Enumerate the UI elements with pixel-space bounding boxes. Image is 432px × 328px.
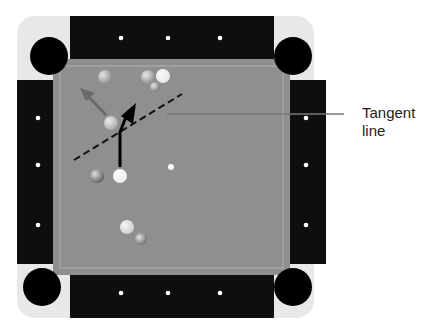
ball-bottom-light	[120, 220, 134, 234]
diamond-left-2	[36, 163, 41, 168]
tangent-label-line1: Tangent	[362, 104, 415, 122]
pocket-bottom-right	[274, 268, 312, 306]
rail-left	[17, 80, 53, 264]
ball-top-left	[98, 70, 112, 84]
rail-top	[70, 16, 274, 59]
object-ball	[104, 116, 118, 130]
tangent-label-line2: line	[362, 122, 415, 140]
ball-cluster-1	[141, 70, 155, 84]
ball-dark-left	[90, 169, 104, 183]
pocket-top-left	[30, 37, 68, 75]
rail-right	[290, 80, 326, 264]
diamond-bottom-3	[218, 291, 223, 296]
diamond-top-2	[166, 36, 171, 41]
diamond-left-1	[36, 116, 41, 121]
tangent-line-label: Tangent line	[362, 104, 415, 140]
spot	[168, 164, 174, 170]
diamond-bottom-2	[166, 291, 171, 296]
cue-ball	[113, 169, 127, 183]
diamond-right-3	[304, 223, 309, 228]
diamond-right-1	[304, 116, 309, 121]
rail-bottom	[70, 275, 274, 318]
ball-bottom-dark	[135, 233, 147, 245]
pocket-bottom-left	[23, 268, 61, 306]
ball-cluster-2	[150, 82, 160, 92]
diamond-top-3	[218, 36, 223, 41]
ball-cue-top	[156, 69, 170, 83]
pocket-top-right	[274, 37, 312, 75]
diamond-top-1	[119, 36, 124, 41]
diamond-left-3	[36, 223, 41, 228]
diamond-right-2	[304, 163, 309, 168]
diamond-bottom-1	[119, 291, 124, 296]
billiard-diagram	[0, 0, 432, 328]
